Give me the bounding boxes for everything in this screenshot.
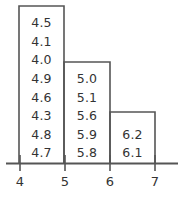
histogram-plot: 4.5 4.1 4.0 4.9 4.6 4.3 4.8 4.7 5.0 5.1 … <box>0 0 185 198</box>
leaf-value: 4.3 <box>31 107 51 126</box>
x-tick-label-5: 5 <box>53 174 77 189</box>
leaf-value: 4.6 <box>31 89 51 108</box>
leaf-value: 4.8 <box>31 126 51 145</box>
x-tick-label-6: 6 <box>98 174 122 189</box>
leaf-value: 4.9 <box>31 70 51 89</box>
x-tick-label-4: 4 <box>8 174 32 189</box>
leaf-value: 4.5 <box>31 14 51 33</box>
leaf-value: 4.0 <box>31 51 51 70</box>
leaf-value: 4.1 <box>31 33 51 52</box>
x-tick-label-7: 7 <box>143 174 167 189</box>
leaf-value: 6.1 <box>122 144 142 163</box>
leaf-value: 5.9 <box>77 126 97 145</box>
bin-stack-5: 5.0 5.1 5.6 5.9 5.8 <box>64 62 110 163</box>
leaf-value: 4.7 <box>31 144 51 163</box>
leaf-value: 5.8 <box>77 144 97 163</box>
leaf-value: 5.1 <box>77 89 97 108</box>
bin-stack-4: 4.5 4.1 4.0 4.9 4.6 4.3 4.8 4.7 <box>19 6 64 163</box>
bin-stack-6: 6.2 6.1 <box>110 112 155 163</box>
leaf-value: 5.6 <box>77 107 97 126</box>
leaf-value: 5.0 <box>77 70 97 89</box>
leaf-value: 6.2 <box>122 126 142 145</box>
